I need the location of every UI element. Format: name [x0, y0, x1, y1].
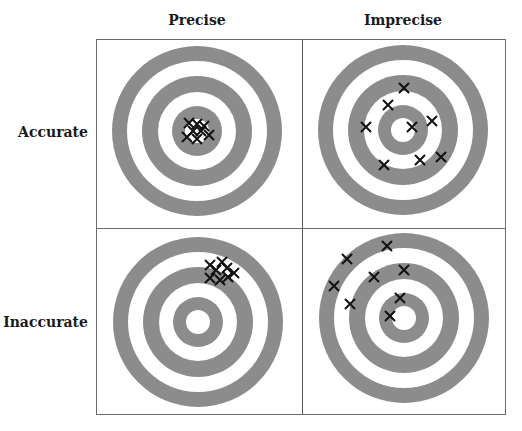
target-accurate-precise — [112, 46, 282, 216]
target-inaccurate-imprecise — [319, 233, 489, 403]
target-ring — [391, 118, 415, 142]
target-ring — [186, 310, 210, 334]
target-inaccurate-precise — [113, 237, 283, 407]
target-accurate-imprecise — [318, 45, 488, 215]
targets-layer — [0, 0, 522, 431]
target-ring — [392, 306, 416, 330]
